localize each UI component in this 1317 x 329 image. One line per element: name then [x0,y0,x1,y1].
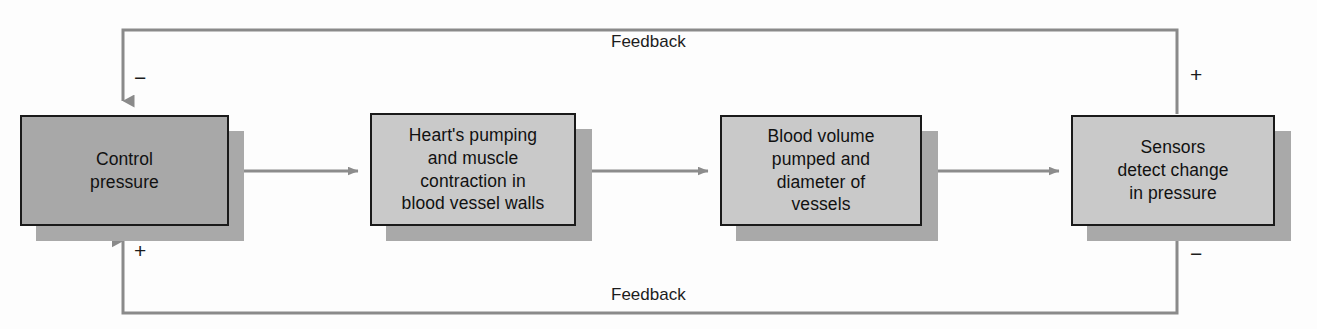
feedback-bottom-label: Feedback [611,285,686,305]
node-sensors[interactable]: Sensors detect change in pressure [1071,115,1275,226]
feedback-bottom-right-sign: − [1190,243,1202,264]
node-control-pressure-label: Control pressure [86,148,163,194]
node-blood-volume-label: Blood volume pumped and diameter of vess… [763,125,878,216]
node-sensors-label: Sensors detect change in pressure [1113,136,1232,204]
node-heart-pumping[interactable]: Heart's pumping and muscle contraction i… [370,113,576,226]
feedback-top-left-sign: − [134,67,146,88]
node-heart-pumping-label: Heart's pumping and muscle contraction i… [398,124,549,215]
feedback-top-label: Feedback [611,32,686,52]
node-blood-volume[interactable]: Blood volume pumped and diameter of vess… [720,115,922,226]
node-control-pressure[interactable]: Control pressure [20,115,229,226]
feedback-top-right-sign: + [1190,64,1202,85]
feedback-bottom-left-sign: + [134,240,146,261]
feedback-loop-diagram: Control pressure Heart's pumping and mus… [0,0,1317,329]
